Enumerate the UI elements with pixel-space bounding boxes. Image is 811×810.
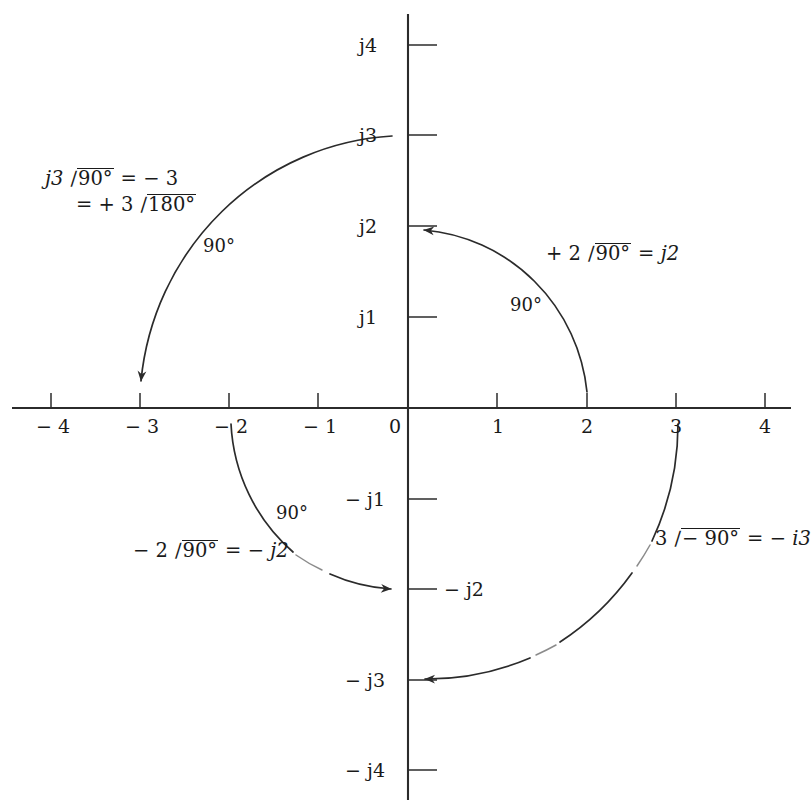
- lr-angle-value: − 90°: [681, 528, 740, 549]
- x-tick-label-2: 2: [581, 417, 593, 436]
- x-tick-label-1: 1: [492, 417, 504, 436]
- annotation-lower-left: − 2∕90°= − j2: [133, 540, 289, 561]
- arc-label-90-upper-right: 90°: [510, 296, 542, 314]
- ur-angle-value: 90°: [595, 243, 632, 264]
- x-tick-label--4: − 4: [36, 417, 70, 436]
- ul-line1-post: = − 3: [121, 167, 178, 190]
- ul-line2-angle-value: 180°: [147, 194, 196, 215]
- ul-line1-pre: j3: [45, 167, 63, 190]
- ll-pre: − 2: [133, 539, 168, 562]
- x-tick-label--1: − 1: [303, 417, 337, 436]
- x-tick-label-0: 0: [389, 417, 401, 436]
- annotation-upper-left: j3∕90°= − 3 = + 3∕180°: [45, 168, 196, 220]
- ul-line2-angle-symbol: ∕180°: [138, 194, 196, 215]
- ll-angle-symbol: ∕90°: [173, 540, 218, 561]
- ur-pre: + 2: [546, 242, 581, 265]
- lr-post: = − i3: [747, 527, 811, 550]
- lr-pre: 3: [655, 527, 667, 550]
- x-tick-label--2: − 2: [214, 417, 248, 436]
- ll-angle-value: 90°: [182, 540, 219, 561]
- y-tick-label-j3: j3: [359, 126, 377, 145]
- ul-line1-angle-symbol: ∕90°: [68, 168, 113, 189]
- y-tick-label--j1: − j1: [345, 490, 385, 509]
- ul-line2-pre: = + 3: [76, 193, 133, 216]
- y-tick-label--j2: − j2: [444, 580, 484, 599]
- ul-line1-angle-value: 90°: [77, 168, 114, 189]
- x-tick-label--3: − 3: [125, 417, 159, 436]
- annotation-lower-right: 3∕− 90°= − i3: [655, 528, 811, 549]
- arc-label-90-upper-left: 90°: [203, 237, 235, 255]
- ur-post: = j2: [638, 242, 679, 265]
- annotation-upper-left-line1: j3∕90°= − 3: [45, 168, 196, 194]
- y-tick-label--j3: − j3: [345, 671, 385, 690]
- arc-label-90-lower-left: 90°: [276, 504, 308, 522]
- x-tick-label-4: 4: [759, 417, 771, 436]
- ll-post: = − j2: [225, 539, 289, 562]
- annotation-upper-left-line2: = + 3∕180°: [45, 194, 196, 220]
- x-tick-label-3: 3: [670, 417, 682, 436]
- y-tick-label-j2: j2: [359, 217, 377, 236]
- annotation-upper-right: + 2∕90°= j2: [546, 243, 679, 264]
- rotation-arc-3-to-minusj3: [425, 424, 678, 679]
- lr-angle-symbol: ∕− 90°: [672, 528, 740, 549]
- ur-angle-symbol: ∕90°: [586, 243, 631, 264]
- y-tick-label-j4: j4: [359, 36, 377, 55]
- y-tick-label-j1: j1: [359, 308, 377, 327]
- y-tick-label--j4: − j4: [345, 761, 385, 780]
